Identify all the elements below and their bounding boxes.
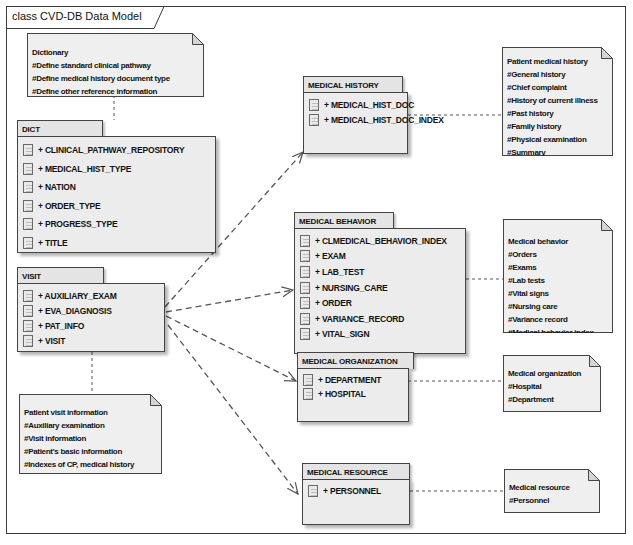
table-icon <box>23 237 33 249</box>
table-icon <box>23 335 33 347</box>
table-icon <box>23 144 33 156</box>
table-item[interactable]: + MEDICAL_HIST_TYPE <box>18 160 215 179</box>
package-tab: MEDICAL RESOURCE <box>302 463 410 480</box>
note-line: #Variance record <box>508 313 608 326</box>
table-item[interactable]: + VARIANCE_RECORD <box>295 311 465 327</box>
table-name: + MEDICAL_HIST_DOC <box>324 100 414 110</box>
table-name: + MEDICAL_HIST_DOC_INDEX <box>324 115 444 125</box>
note-line: #General history <box>507 68 608 81</box>
table-item[interactable]: + PAT_INFO <box>18 318 164 333</box>
table-name: + PERSONNEL <box>323 486 381 496</box>
table-item[interactable]: + ORDER_TYPE <box>18 197 215 216</box>
note-medical-organization: Medical organization #Hospital #Departme… <box>503 355 601 412</box>
table-icon <box>300 235 310 247</box>
table-icon <box>303 388 313 400</box>
package-body: + AUXILIARY_EXAM + EVA_DIAGNOSIS + PAT_I… <box>17 283 165 352</box>
table-name: + VARIANCE_RECORD <box>315 314 404 324</box>
note-line: #Hospital <box>508 380 596 393</box>
table-name: + MEDICAL_HIST_TYPE <box>38 164 131 174</box>
note-line: #History of current illness <box>507 94 608 107</box>
note-line: #Past history <box>507 107 608 120</box>
table-item[interactable]: + MEDICAL_HIST_DOC <box>304 97 407 112</box>
note-line: Medical resource <box>509 481 595 494</box>
note-line: #Personnel <box>509 494 595 507</box>
table-item[interactable]: + EXAM <box>295 249 465 265</box>
table-icon <box>23 200 33 212</box>
note-fold-icon <box>601 47 613 59</box>
table-name: + AUXILIARY_EXAM <box>38 291 117 301</box>
table-item[interactable]: + VITAL_SIGN <box>295 327 465 343</box>
note-line: Medical behavior <box>508 235 608 248</box>
package-body: + DEPARTMENT + HOSPITAL <box>297 368 409 422</box>
table-name: + TITLE <box>38 238 68 248</box>
table-item[interactable]: + PERSONNEL <box>303 484 409 498</box>
table-icon <box>23 218 33 230</box>
table-name: + EVA_DIAGNOSIS <box>38 306 112 316</box>
table-item[interactable]: + TITLE <box>18 234 215 253</box>
note-line: #Visit information <box>24 432 157 445</box>
note-line: #Department <box>508 393 596 406</box>
table-name: + ORDER <box>315 298 352 308</box>
note-fold-icon <box>589 355 601 367</box>
table-icon <box>308 485 318 497</box>
note-line: Patient medical history <box>507 55 608 68</box>
note-medical-history: Patient medical history #General history… <box>502 47 613 156</box>
note-line: #Chief complaint <box>507 81 608 94</box>
table-icon <box>300 297 310 309</box>
package-body: + PERSONNEL <box>302 479 410 525</box>
table-item[interactable]: + HOSPITAL <box>298 387 408 401</box>
table-item[interactable]: + EVA_DIAGNOSIS <box>18 303 164 318</box>
note-medical-behavior: Medical behavior #Orders #Exams #Lab tes… <box>503 219 613 333</box>
table-icon <box>23 163 33 175</box>
table-item[interactable]: + DEPARTMENT <box>298 373 408 387</box>
note-line: #Patient's basic information <box>24 445 157 458</box>
note-dict: Dictionary #Define standard clinical pat… <box>27 33 204 97</box>
note-line: Dictionary <box>32 46 199 59</box>
note-line: #Define standard clinical pathway <box>32 59 199 72</box>
note-line: #Orders <box>508 248 608 261</box>
note-line: #Lab tests <box>508 274 608 287</box>
table-item[interactable]: + NATION <box>18 178 215 197</box>
note-line: #Define other reference information <box>32 85 199 98</box>
dependency-visit-to-medical-resource <box>168 325 298 494</box>
table-icon <box>23 290 33 302</box>
note-fold-icon <box>192 33 204 45</box>
note-line: #Indexes of CP, medical history <box>24 458 157 471</box>
table-item[interactable]: + CLMEDICAL_BEHAVIOR_INDEX <box>295 233 465 249</box>
table-item[interactable]: + MEDICAL_HIST_DOC_INDEX <box>304 112 407 127</box>
table-item[interactable]: + VISIT <box>18 333 164 348</box>
table-item[interactable]: + PROGRESS_TYPE <box>18 215 215 234</box>
table-item[interactable]: + AUXILIARY_EXAM <box>18 288 164 303</box>
table-icon <box>23 320 33 332</box>
note-fold-icon <box>150 394 162 406</box>
note-line: Patient visit information <box>24 406 157 419</box>
table-icon <box>309 99 319 111</box>
note-line: #Family history <box>507 120 608 133</box>
table-name: + DEPARTMENT <box>318 375 381 385</box>
package-body: + CLMEDICAL_BEHAVIOR_INDEX + EXAM + LAB_… <box>294 228 466 354</box>
package-tab: VISIT <box>17 267 104 284</box>
dependency-visit-to-medical-organization <box>166 316 296 381</box>
note-medical-resource: Medical resource #Personnel <box>504 469 600 513</box>
table-icon <box>23 181 33 193</box>
note-visit: Patient visit information #Auxiliary exa… <box>19 394 162 474</box>
table-icon <box>300 313 310 325</box>
table-item[interactable]: + NURSING_CARE <box>295 280 465 296</box>
table-name: + CLMEDICAL_BEHAVIOR_INDEX <box>315 236 447 246</box>
table-name: + VISIT <box>38 336 65 346</box>
note-fold-icon <box>601 219 613 231</box>
table-name: + PAT_INFO <box>38 321 84 331</box>
table-item[interactable]: + CLINICAL_PATHWAY_REPOSITORY <box>18 141 215 160</box>
package-body: + MEDICAL_HIST_DOC + MEDICAL_HIST_DOC_IN… <box>303 92 408 154</box>
table-name: + NATION <box>38 182 76 192</box>
package-body: + CLINICAL_PATHWAY_REPOSITORY + MEDICAL_… <box>17 136 216 253</box>
table-name: + NURSING_CARE <box>315 283 388 293</box>
note-line: #Exams <box>508 261 608 274</box>
table-item[interactable]: + LAB_TEST <box>295 264 465 280</box>
dependency-visit-to-medical-behavior <box>166 290 293 312</box>
table-item[interactable]: + ORDER <box>295 295 465 311</box>
note-fold-icon <box>588 469 600 481</box>
note-line: #Auxiliary examination <box>24 419 157 432</box>
note-line: #Vital signs <box>508 287 608 300</box>
table-name: + LAB_TEST <box>315 267 364 277</box>
